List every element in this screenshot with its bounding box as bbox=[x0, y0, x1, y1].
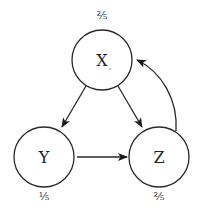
node-y-probability: ⅕ bbox=[39, 190, 50, 203]
edge-z-to-x-curved-arrow bbox=[137, 60, 176, 131]
node-z-probability: ⅖ bbox=[154, 190, 165, 203]
markov-chain-diagram: X ⅖ Y ⅕ Z ⅖ bbox=[0, 0, 202, 218]
node-x-dot bbox=[109, 68, 111, 70]
node-y: Y ⅕ bbox=[14, 127, 74, 203]
node-y-label: Y bbox=[38, 148, 50, 167]
node-z-label: Z bbox=[153, 148, 164, 167]
node-x-label: X bbox=[96, 51, 108, 70]
node-z: Z ⅖ bbox=[129, 127, 189, 203]
edge-x-to-y-arrow bbox=[62, 86, 86, 127]
node-x-probability: ⅖ bbox=[97, 9, 108, 22]
node-x: X ⅖ bbox=[72, 9, 132, 90]
edge-x-to-z-arrow bbox=[118, 86, 142, 127]
